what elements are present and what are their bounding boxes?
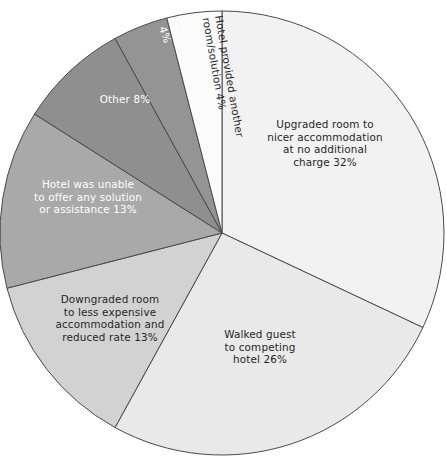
pie-chart: Upgraded room tonicer accommodationat no… bbox=[0, 0, 447, 459]
chart-title bbox=[0, 0, 447, 6]
slice-label-downgraded-room: Downgraded roomto less expensiveaccommod… bbox=[55, 293, 164, 343]
pie-chart-canvas: Upgraded room tonicer accommodationat no… bbox=[0, 0, 447, 459]
slice-label-hotel-unable: Hotel was unableto offer any solutionor … bbox=[34, 178, 142, 215]
slice-label-other: Other 8% bbox=[100, 93, 151, 105]
slice-label-walked-guest: Walked guestto competinghotel 26% bbox=[224, 328, 296, 365]
